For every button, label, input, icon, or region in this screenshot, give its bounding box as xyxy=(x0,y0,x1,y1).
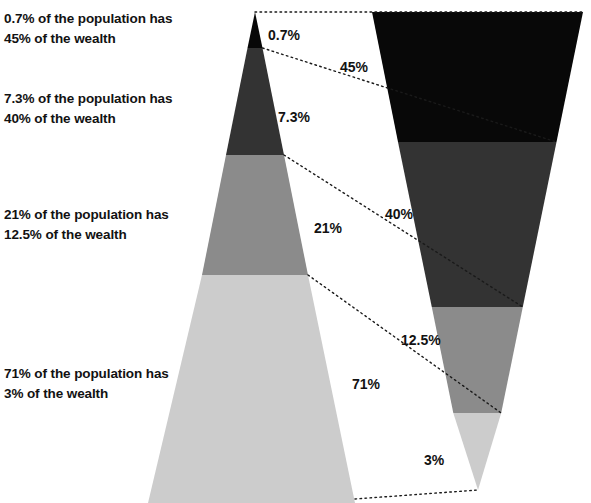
population-band-tier-1 xyxy=(248,12,263,48)
wealth-label-tier-3: 12.5% xyxy=(401,332,441,348)
population-label-tier-2: 7.3% xyxy=(278,109,310,125)
wealth-label-tier-2: 40% xyxy=(385,206,414,222)
pyramid-diagram: 0.7% 7.3% 21% 71% 45% 40% 12.5% 3% xyxy=(0,0,591,503)
wealth-label-tier-1: 45% xyxy=(340,59,369,75)
caption-tier-4: 71% of the population has 3% of the weal… xyxy=(4,364,214,403)
caption-tier-2: 7.3% of the population has 40% of the we… xyxy=(4,89,214,128)
wealth-label-tier-4: 3% xyxy=(424,452,445,468)
wealth-band-tier-2 xyxy=(398,142,557,307)
population-band-tier-2 xyxy=(226,48,284,155)
caption-tier-1: 0.7% of the population has 45% of the we… xyxy=(4,9,214,48)
wealth-band-tier-3 xyxy=(432,307,523,413)
population-label-tier-3: 21% xyxy=(314,220,343,236)
population-band-tier-3 xyxy=(202,155,308,275)
population-label-tier-4: 71% xyxy=(352,376,381,392)
wealth-distribution-infographic: 0.7% 7.3% 21% 71% 45% 40% 12.5% 3% 0.7% … xyxy=(0,0,591,503)
population-label-tier-1: 0.7% xyxy=(268,27,300,43)
wealth-pyramid xyxy=(372,12,583,490)
wealth-band-tier-4 xyxy=(453,413,501,490)
connector-line-bottom xyxy=(355,490,478,499)
population-pyramid xyxy=(148,12,355,503)
wealth-band-tier-1 xyxy=(372,12,583,142)
caption-tier-3: 21% of the population has 12.5% of the w… xyxy=(4,205,214,244)
